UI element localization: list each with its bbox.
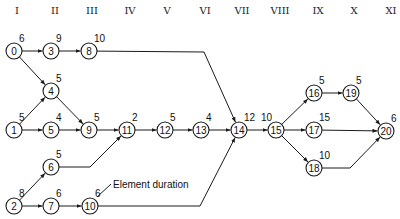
node-17: 1715 bbox=[306, 112, 331, 138]
node-16: 165 bbox=[306, 75, 325, 101]
duration-label: 5 bbox=[356, 75, 362, 86]
nodes: 0639810451554951121251341412151016519517… bbox=[6, 33, 397, 214]
node-id-label: 12 bbox=[159, 125, 171, 136]
duration-label: 10 bbox=[261, 112, 273, 123]
node-20: 206 bbox=[378, 113, 397, 139]
phase-label: V bbox=[162, 5, 171, 16]
node-18: 1810 bbox=[306, 150, 331, 176]
duration-label: 12 bbox=[244, 112, 256, 123]
phase-header-row: IIIIIIIVVVIVIIVIIIIXXXI bbox=[15, 5, 397, 16]
node-4: 45 bbox=[43, 73, 62, 99]
phase-label: X bbox=[350, 5, 358, 16]
node-id-label: 4 bbox=[48, 86, 54, 97]
edge-18-to-20 bbox=[322, 137, 380, 168]
duration-label: 6 bbox=[391, 113, 397, 124]
node-id-label: 10 bbox=[84, 201, 96, 212]
duration-label: 9 bbox=[56, 33, 62, 44]
node-id-label: 16 bbox=[308, 88, 320, 99]
phase-label: IX bbox=[312, 5, 324, 16]
duration-label: 4 bbox=[56, 112, 62, 123]
phase-label: I bbox=[15, 5, 19, 16]
duration-label: 4 bbox=[206, 112, 212, 123]
phase-label: XI bbox=[385, 5, 396, 16]
duration-label: 6 bbox=[56, 188, 62, 199]
node-11: 112 bbox=[119, 112, 138, 138]
edge-8-to-14 bbox=[97, 51, 236, 122]
node-id-label: 14 bbox=[233, 125, 245, 136]
node-id-label: 18 bbox=[308, 163, 320, 174]
node-id-label: 5 bbox=[48, 125, 54, 136]
phase-label: VII bbox=[233, 5, 249, 16]
node-3: 39 bbox=[43, 33, 62, 59]
duration-label: 10 bbox=[319, 150, 331, 161]
duration-label: 10 bbox=[94, 33, 106, 44]
node-6: 65 bbox=[43, 149, 62, 175]
duration-label: 5 bbox=[56, 149, 62, 160]
phase-label: VI bbox=[198, 5, 210, 16]
edge-17-to-20 bbox=[322, 130, 378, 131]
duration-label: 5 bbox=[19, 112, 25, 123]
node-id-label: 15 bbox=[270, 125, 282, 136]
duration-label: 5 bbox=[170, 112, 176, 123]
node-14: 1412 bbox=[231, 112, 256, 138]
node-13: 134 bbox=[193, 112, 212, 138]
node-0: 06 bbox=[6, 33, 25, 59]
node-id-label: 7 bbox=[48, 201, 54, 212]
duration-label: 5 bbox=[94, 112, 100, 123]
node-7: 76 bbox=[43, 188, 62, 214]
node-id-label: 13 bbox=[195, 125, 207, 136]
edge-19-to-20 bbox=[356, 99, 380, 125]
node-id-label: 19 bbox=[345, 88, 357, 99]
node-15: 1510 bbox=[261, 112, 284, 138]
edge-0-to-4 bbox=[19, 57, 45, 85]
node-id-label: 17 bbox=[308, 125, 320, 136]
node-8: 810 bbox=[81, 33, 106, 59]
duration-label: 8 bbox=[19, 188, 25, 199]
annotation-text: Element duration bbox=[113, 179, 189, 190]
duration-label: 6 bbox=[19, 33, 25, 44]
phase-label: II bbox=[51, 5, 59, 16]
node-id-label: 1 bbox=[11, 125, 17, 136]
node-19: 195 bbox=[343, 75, 362, 101]
node-id-label: 20 bbox=[380, 126, 392, 137]
node-id-label: 6 bbox=[48, 162, 54, 173]
edge-15-to-16 bbox=[282, 99, 308, 125]
node-id-label: 3 bbox=[48, 46, 54, 57]
node-9: 95 bbox=[81, 112, 100, 138]
node-1: 15 bbox=[6, 112, 25, 138]
network-diagram: IIIIIIIVVVIVIIVIIIIXXXI 0639810451554951… bbox=[0, 0, 400, 219]
edge-6-to-11 bbox=[59, 136, 121, 167]
phase-label: III bbox=[86, 5, 98, 16]
node-id-label: 2 bbox=[11, 201, 17, 212]
node-12: 125 bbox=[157, 112, 176, 138]
node-2: 28 bbox=[6, 188, 25, 214]
phase-label: IV bbox=[124, 5, 136, 16]
node-id-label: 8 bbox=[86, 46, 92, 57]
element-duration-annotation: Element duration bbox=[97, 179, 189, 197]
node-10: 106 bbox=[82, 188, 101, 214]
edge-10-to-14 bbox=[98, 138, 235, 206]
duration-label: 5 bbox=[319, 75, 325, 86]
node-id-label: 0 bbox=[11, 46, 17, 57]
node-5: 54 bbox=[43, 112, 62, 138]
edge-15-to-18 bbox=[282, 136, 308, 162]
phase-label: VIII bbox=[269, 5, 289, 16]
duration-label: 2 bbox=[132, 112, 138, 123]
node-id-label: 9 bbox=[86, 125, 92, 136]
duration-label: 15 bbox=[319, 112, 331, 123]
node-id-label: 11 bbox=[122, 125, 133, 136]
duration-label: 5 bbox=[56, 73, 62, 84]
